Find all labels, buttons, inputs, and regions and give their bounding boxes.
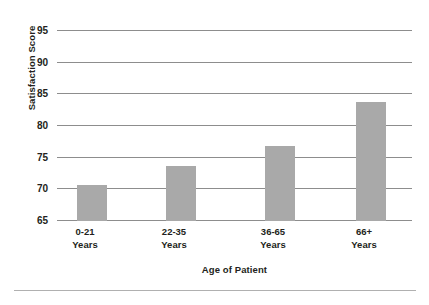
x-category-label-22-35-years: 22-35 Years xyxy=(136,226,212,251)
x-category-line2-2: Years xyxy=(235,239,311,252)
y-tick-label-80: 80 xyxy=(37,120,48,131)
y-tick-label-90: 90 xyxy=(37,56,48,67)
x-category-line2-3: Years xyxy=(326,239,402,252)
x-category-line1-2: 36-65 xyxy=(261,226,285,237)
bar-chart-figure: Satisfaction Score 95 90 85 80 75 70 65 … xyxy=(0,0,429,305)
footer-divider xyxy=(14,290,416,291)
y-tick-label-65: 65 xyxy=(37,215,48,226)
x-category-label-36-65-years: 36-65 Years xyxy=(235,226,311,251)
bar-66-plus-years xyxy=(356,102,386,221)
bar-0-21-years xyxy=(77,185,107,221)
bar-36-65-years xyxy=(265,146,295,221)
x-category-label-66-plus-years: 66+ Years xyxy=(326,226,402,251)
x-category-line2-0: Years xyxy=(47,239,123,252)
x-category-line2-1: Years xyxy=(136,239,212,252)
y-tick-label-85: 85 xyxy=(37,88,48,99)
gridline-95: 95 xyxy=(57,30,412,31)
y-tick-label-70: 70 xyxy=(37,183,48,194)
y-tick-label-95: 95 xyxy=(37,25,48,36)
x-category-line1-3: 66+ xyxy=(356,226,372,237)
x-category-label-0-21-years: 0-21 Years xyxy=(47,226,123,251)
x-axis-title: Age of Patient xyxy=(57,264,412,275)
gridline-85: 85 xyxy=(57,93,412,94)
gridline-90: 90 xyxy=(57,62,412,63)
x-category-line1-0: 0-21 xyxy=(75,226,94,237)
y-tick-label-75: 75 xyxy=(37,151,48,162)
plot-area: 95 90 85 80 75 70 65 xyxy=(57,30,412,221)
x-category-line1-1: 22-35 xyxy=(162,226,186,237)
bar-22-35-years xyxy=(166,166,196,221)
